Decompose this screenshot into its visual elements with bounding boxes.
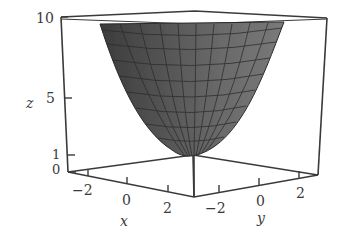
z-axis-label: z xyxy=(26,96,33,110)
x-tick-2: 2 xyxy=(163,201,172,215)
z-tick-0: 0 xyxy=(52,163,60,176)
paraboloid-surface xyxy=(100,22,284,156)
z-axis-ticks xyxy=(61,17,76,172)
y-tick-0: 0 xyxy=(256,194,265,208)
y-axis-ticks xyxy=(219,171,299,192)
z-tick-1: 1 xyxy=(52,148,60,161)
z-tick-10: 10 xyxy=(36,11,54,25)
x-tick-0: 0 xyxy=(122,193,131,207)
x-tick-neg2: −2 xyxy=(72,183,93,197)
z-tick-5: 5 xyxy=(46,91,55,105)
y-axis-label: y xyxy=(257,211,265,225)
y-tick-neg2: −2 xyxy=(205,201,226,215)
y-tick-2: 2 xyxy=(296,186,305,200)
x-axis-label: x xyxy=(120,214,128,228)
paraboloid-3d-plot xyxy=(0,0,345,244)
